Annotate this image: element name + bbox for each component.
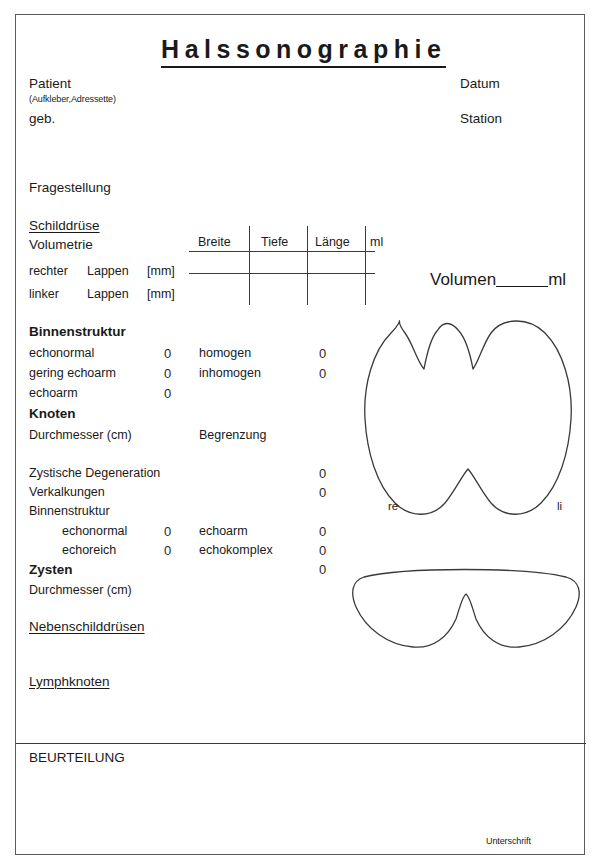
- zysten-durchmesser-label: Durchmesser (cm): [29, 584, 132, 597]
- checkbox-zysten[interactable]: 0: [319, 562, 326, 577]
- subsection-heading-binnenstruktur: Binnenstruktur: [29, 325, 126, 339]
- table-divider-1: [249, 226, 250, 305]
- knoten-begrenzung-label: Begrenzung: [199, 429, 266, 442]
- checkbox-gering-echoarm[interactable]: 0: [164, 366, 171, 381]
- signature-label: Unterschrift: [486, 837, 531, 846]
- option-label-homogen: homogen: [199, 347, 251, 360]
- section-heading-lymphknoten: Lymphknoten: [29, 675, 110, 689]
- option-label-knoten-echokomplex: echokomplex: [199, 544, 273, 557]
- checkbox-zystische-degeneration[interactable]: 0: [319, 466, 326, 481]
- row-label-linker: linker: [29, 288, 59, 301]
- volumetrie-label: Volumetrie: [29, 238, 93, 252]
- column-header-breite: Breite: [198, 235, 231, 249]
- diagram-label-li: li: [557, 501, 562, 513]
- checkbox-knoten-echoarm[interactable]: 0: [319, 524, 326, 539]
- checkbox-echoarm[interactable]: 0: [164, 386, 171, 401]
- table-divider-3: [365, 226, 366, 305]
- subsection-heading-knoten: Knoten: [29, 407, 76, 421]
- volumen-field[interactable]: Volumenml: [430, 270, 566, 290]
- column-header-ml: ml: [370, 235, 383, 249]
- table-divider-2: [307, 226, 308, 305]
- section-heading-schilddruese: Schilddrüse: [29, 219, 100, 233]
- volumen-input-blank[interactable]: [496, 286, 548, 287]
- checkbox-knoten-echokomplex[interactable]: 0: [319, 543, 326, 558]
- beurteilung-divider: [16, 743, 586, 744]
- checkbox-inhomogen[interactable]: 0: [319, 366, 326, 381]
- row-label-rechter: rechter: [29, 265, 68, 278]
- option-label-echonormal: echonormal: [29, 347, 94, 360]
- subsection-heading-knoten-binnenstruktur: Binnenstruktur: [29, 505, 110, 518]
- volumen-label: Volumen: [430, 270, 496, 289]
- fragestellung-label: Fragestellung: [29, 181, 111, 195]
- station-label: Station: [460, 112, 502, 126]
- row-label-rechter-unit: [mm]: [147, 265, 175, 278]
- section-heading-nebenschilddruesen: Nebenschilddrüsen: [29, 620, 145, 634]
- option-label-gering-echoarm: gering echoarm: [29, 367, 116, 380]
- volumen-unit: ml: [548, 270, 566, 289]
- volumetry-table[interactable]: Breite Tiefe Länge ml: [189, 226, 375, 305]
- checkbox-homogen[interactable]: 0: [319, 346, 326, 361]
- geburtsdatum-label: geb.: [29, 112, 55, 126]
- checkbox-knoten-echoreich[interactable]: 0: [164, 543, 171, 558]
- finding-label-zystische-degeneration: Zystische Degeneration: [29, 467, 160, 480]
- diagram-label-re: re: [388, 501, 398, 513]
- datum-label: Datum: [460, 77, 500, 91]
- page-title: Halssonographie: [16, 37, 586, 62]
- finding-label-verkalkungen: Verkalkungen: [29, 486, 105, 499]
- column-header-tiefe: Tiefe: [261, 235, 288, 249]
- row-label-linker-unit: [mm]: [147, 288, 175, 301]
- thyroid-transverse-diagram[interactable]: [344, 563, 589, 658]
- column-header-laenge: Länge: [315, 235, 350, 249]
- page-title-text: Halssonographie: [161, 35, 446, 68]
- row-label-rechter-lappen: Lappen: [87, 265, 129, 278]
- table-rule-middle: [189, 273, 375, 274]
- checkbox-knoten-echonormal[interactable]: 0: [164, 524, 171, 539]
- thyroid-frontal-diagram[interactable]: re li: [351, 303, 586, 525]
- row-label-linker-lappen: Lappen: [87, 288, 129, 301]
- beurteilung-heading: BEURTEILUNG: [29, 751, 125, 765]
- patient-sublabel: (Aufkleber,Adressette): [29, 95, 116, 104]
- option-label-knoten-echoarm: echoarm: [199, 525, 248, 538]
- knoten-durchmesser-label: Durchmesser (cm): [29, 429, 132, 442]
- subsection-heading-zysten: Zysten: [29, 563, 73, 577]
- checkbox-echonormal[interactable]: 0: [164, 346, 171, 361]
- option-label-inhomogen: inhomogen: [199, 367, 261, 380]
- form-page-border: Halssonographie Patient (Aufkleber,Adres…: [15, 14, 585, 855]
- patient-label: Patient: [29, 77, 71, 91]
- option-label-knoten-echoreich: echoreich: [62, 544, 116, 557]
- option-label-knoten-echonormal: echonormal: [62, 525, 127, 538]
- checkbox-verkalkungen[interactable]: 0: [319, 485, 326, 500]
- table-rule-top: [189, 251, 375, 252]
- option-label-echoarm: echoarm: [29, 387, 78, 400]
